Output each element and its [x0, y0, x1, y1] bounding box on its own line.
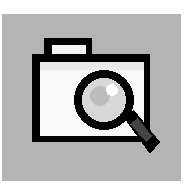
folder-search-icon[interactable] [0, 0, 190, 193]
